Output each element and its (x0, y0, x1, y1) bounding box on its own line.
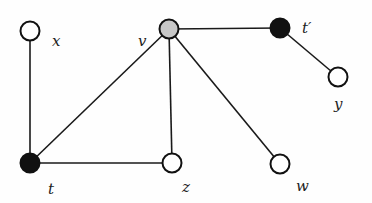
node-label-y: y (334, 97, 342, 112)
node-label-z: z (182, 180, 190, 195)
node-label-w: w (296, 179, 309, 194)
graph-diagram: x v t′ y t z w (0, 0, 372, 203)
edge-v-z (169, 29, 172, 163)
node-t-prime (271, 19, 290, 38)
node-x (21, 22, 40, 41)
node-v (160, 20, 179, 39)
node-z (163, 154, 182, 173)
node-label-t: t (48, 182, 54, 197)
node-label-x: x (52, 34, 60, 49)
node-t (21, 154, 40, 173)
edge-v-t (30, 29, 169, 163)
node-y (329, 68, 348, 87)
node-label-t-prime: t′ (302, 21, 311, 36)
edge-v-w (169, 29, 280, 164)
edges-group (30, 28, 338, 164)
graph-svg (0, 0, 372, 203)
nodes-group (21, 19, 348, 174)
node-w (271, 155, 290, 174)
node-label-v: v (138, 34, 146, 49)
edge-v-t_prime (169, 28, 280, 29)
